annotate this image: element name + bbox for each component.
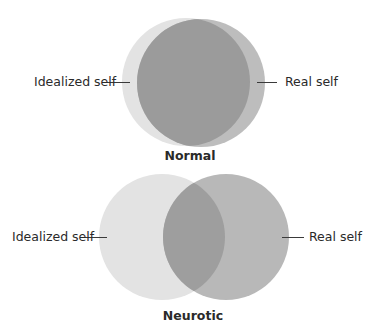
idealized-self-label: Idealized self bbox=[12, 230, 94, 244]
real-self-label: Real self bbox=[285, 75, 338, 89]
real-self-leader bbox=[257, 82, 277, 83]
real-self-leader bbox=[282, 237, 304, 238]
real-self-label: Real self bbox=[309, 230, 362, 244]
normal-caption: Normal bbox=[130, 148, 250, 163]
idealized-self-label: Idealized self bbox=[34, 75, 116, 89]
neurotic-circles bbox=[0, 165, 368, 330]
neurotic-diagram: Idealized self Real self Neurotic bbox=[0, 165, 368, 330]
normal-diagram: Idealized self Real self Normal bbox=[0, 0, 368, 165]
neurotic-caption: Neurotic bbox=[133, 308, 253, 323]
